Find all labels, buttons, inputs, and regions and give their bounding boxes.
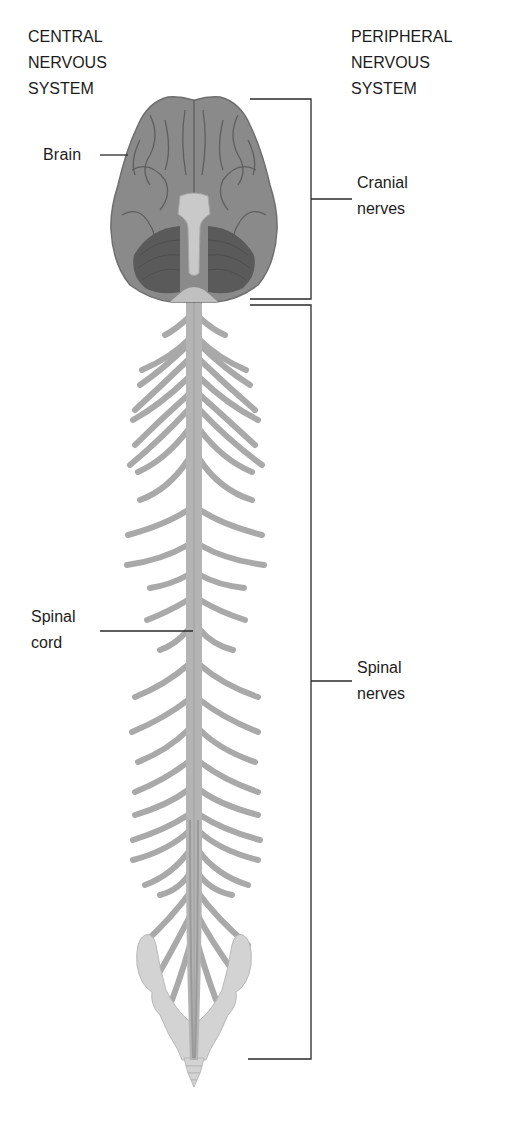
spinal-nerves-label-line-2: nerves [357, 681, 405, 707]
brain-graphic [111, 97, 277, 302]
spinal-nerves-label-line-1: Spinal [357, 655, 405, 681]
spinal-cord-label-line-2: cord [31, 630, 75, 656]
spinal-cord-graphic [186, 300, 202, 1060]
spinal-cord-label: Spinal cord [31, 604, 75, 656]
cranial-nerves-label: Cranial nerves [357, 170, 408, 222]
cranial-label-line-2: nerves [357, 196, 408, 222]
brain-label: Brain [43, 142, 81, 168]
spinal-cord-label-line-1: Spinal [31, 604, 75, 630]
nervous-system-illustration [0, 0, 523, 1121]
spinal-nerves-label: Spinal nerves [357, 655, 405, 707]
cranial-label-line-1: Cranial [357, 170, 408, 196]
